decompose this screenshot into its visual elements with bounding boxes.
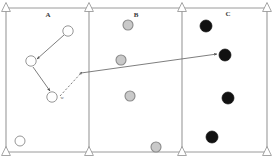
node-b4 <box>151 142 161 152</box>
node-c1 <box>200 20 212 32</box>
node-b2 <box>116 55 126 65</box>
panel-c-nodes <box>200 20 234 143</box>
arrows-group <box>33 35 217 96</box>
node-a1 <box>63 26 73 36</box>
figure-canvas: A B C w <box>0 0 274 161</box>
panel-b-nodes <box>116 20 161 152</box>
node-b3 <box>125 91 135 101</box>
three-panel-diagram: A B C w <box>0 0 274 161</box>
support-bottom-mid1-icon <box>85 147 94 156</box>
frame-group <box>6 8 267 152</box>
node-a2 <box>26 56 36 66</box>
support-bottom-mid2-icon <box>178 147 187 156</box>
node-b1 <box>123 20 133 30</box>
support-top-right-icon <box>263 3 272 12</box>
node-c2 <box>219 49 231 61</box>
panel-label-b: B <box>134 11 139 19</box>
support-top-mid2-icon <box>178 3 187 12</box>
panel-label-a: A <box>45 11 50 19</box>
support-top-left-icon <box>2 3 11 12</box>
support-bottom-left-icon <box>2 147 11 156</box>
arrow-a3-to-junction-dashed <box>60 72 82 96</box>
node-a4 <box>15 136 25 146</box>
arrow-junction-to-c2 <box>81 54 217 73</box>
node-c4 <box>206 131 218 143</box>
node-label-w: w <box>60 95 64 100</box>
arrow-a2-to-a3 <box>33 67 50 91</box>
support-markers-bottom <box>2 147 272 156</box>
support-top-mid1-icon <box>85 3 94 12</box>
node-a3 <box>47 92 57 102</box>
node-annotations: w <box>60 95 64 100</box>
support-bottom-right-icon <box>263 147 272 156</box>
panel-label-c: C <box>225 10 230 18</box>
node-c3 <box>222 92 234 104</box>
panel-a-nodes <box>15 26 73 146</box>
panel-labels: A B C <box>45 10 230 19</box>
arrow-a1-to-a2 <box>37 35 64 59</box>
